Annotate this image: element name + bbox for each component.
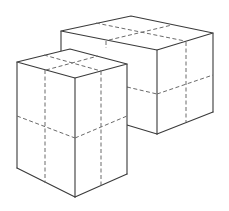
front-box — [17, 49, 127, 197]
diagram-canvas — [0, 0, 229, 211]
boxes-illustration — [0, 0, 229, 211]
